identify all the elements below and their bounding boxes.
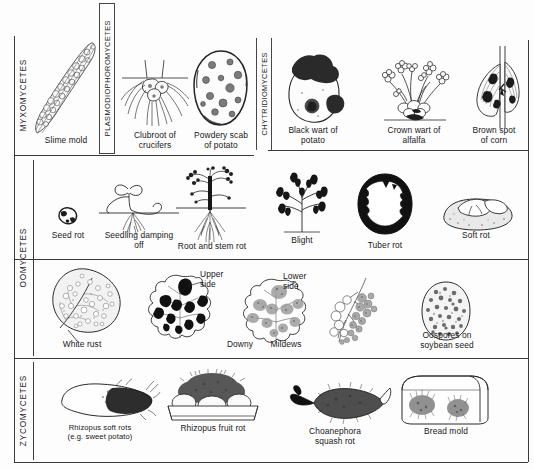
zycomycetes-rail-rule (33, 362, 34, 460)
caption-blight: Blight (272, 236, 332, 246)
caption-choanephora: Choanephora squash rot (288, 427, 382, 446)
illustration-soft-rot (436, 192, 518, 234)
caption-mildews-word: Mildews (261, 340, 311, 350)
class-label-myxomycetes: MYXOMYCETES (19, 59, 28, 132)
illustration-crown-wart (368, 48, 460, 128)
row3-bottom-rule (14, 358, 528, 359)
illustration-mildew-cluster (322, 276, 390, 348)
caption-soft-rot: Soft rot (444, 231, 508, 241)
class-rail-oomycetes: OOMYCETES (16, 160, 31, 356)
illustration-slime-mold (30, 38, 102, 138)
illustration-tuber-rot (354, 172, 416, 236)
caption-oospores: Oospores on soybean seed (406, 331, 488, 350)
figure-canvas: MYXOMYCETES PLASMODIOPHOROMYCETES CHYTRI… (0, 0, 534, 469)
caption-white-rust: White rust (42, 340, 122, 350)
row2-bottom-rule (14, 259, 528, 260)
illustration-white-rust (46, 266, 126, 338)
illustration-rhizopus-soft-rot (54, 378, 158, 420)
caption-rhizopus-soft-rot: Rhizopus soft rots (e.g. sweet potato) (40, 424, 160, 442)
illustration-brown-spot (466, 44, 524, 130)
class-rail-myxomycetes: MYXOMYCETES (16, 36, 31, 154)
caption-crown-wart: Crown wart of alfalfa (366, 126, 462, 145)
illustration-clubroot (116, 56, 194, 132)
row4-bottom-rule (14, 462, 528, 463)
illustration-black-wart (278, 48, 350, 128)
caption-rhizopus-fruit-rot: Rhizopus fruit rot (157, 424, 269, 434)
illustration-choanephora (288, 383, 390, 423)
caption-black-wart: Black wart of potato (273, 126, 353, 145)
illustration-rhizopus-fruit-rot (162, 372, 264, 422)
caption-slime-mold: Slime mold (33, 136, 99, 146)
illustration-bread-mold (396, 372, 494, 426)
class-label-chytridiomycetes: CHYTRIDIOMYCETES (260, 52, 269, 136)
caption-downy-lower: Lower side (283, 272, 327, 291)
oomycetes-rail-rule (33, 160, 34, 356)
caption-bread-mold: Bread mold (408, 427, 484, 437)
left-frame-rule (14, 36, 15, 463)
caption-downy-word: Downy (218, 340, 262, 350)
caption-powdery-scab: Powdery scab of potato (181, 131, 261, 150)
row1-bottom-rule (14, 155, 254, 156)
caption-tuber-rot: Tuber rot (352, 241, 418, 251)
row1-right-frame (528, 40, 529, 462)
illustration-powdery-scab (190, 48, 252, 130)
illustration-seed-rot (54, 205, 82, 227)
class-label-zycomycetes: ZYCOMYCETES (19, 375, 28, 446)
illustration-blight (262, 168, 342, 236)
caption-root-stem-rot: Root and stem rot (163, 242, 261, 252)
caption-seed-rot: Seed rot (40, 231, 96, 241)
class-label-oomycetes: OOMYCETES (19, 228, 28, 288)
caption-brown-spot: Brown spot of corn (457, 126, 531, 145)
class-label-plasmodiophoromycetes: PLASMODIOPHOROMYCETES (103, 20, 112, 136)
class-rail-zycomycetes: ZYCOMYCETES (16, 362, 31, 460)
row1-right-bottom-rule (268, 150, 528, 151)
illustration-root-stem-rot (174, 166, 248, 248)
